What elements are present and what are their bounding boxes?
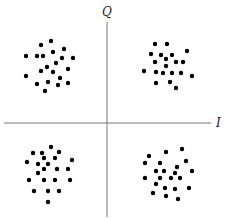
data-point	[159, 53, 163, 57]
data-point	[42, 178, 46, 182]
data-point	[143, 176, 147, 180]
data-point	[181, 60, 185, 64]
data-point	[180, 147, 184, 151]
data-point	[154, 182, 158, 186]
data-point	[158, 176, 162, 180]
data-point	[163, 186, 167, 190]
data-point	[43, 89, 47, 93]
data-point	[173, 171, 177, 175]
data-point	[53, 156, 57, 160]
data-point	[42, 167, 46, 171]
data-point	[46, 162, 50, 166]
data-point	[164, 150, 168, 154]
data-point	[154, 169, 158, 173]
data-point	[149, 52, 153, 56]
data-point	[190, 169, 194, 173]
data-point	[53, 178, 57, 182]
scatter-points	[24, 39, 194, 204]
data-point	[42, 156, 46, 160]
data-point	[153, 42, 157, 46]
data-point	[51, 70, 55, 74]
data-point	[170, 71, 174, 75]
data-point	[142, 69, 146, 73]
data-point	[190, 74, 194, 78]
data-point	[158, 161, 162, 165]
q-axis-label: Q	[102, 5, 112, 19]
data-point	[25, 160, 29, 164]
data-point	[27, 178, 31, 182]
data-point	[176, 197, 180, 201]
data-point	[143, 161, 147, 165]
data-point	[170, 53, 174, 57]
cluster-bottom-right	[143, 147, 194, 201]
data-point	[35, 82, 39, 86]
data-point	[68, 178, 72, 182]
data-point	[56, 83, 60, 87]
data-point	[153, 60, 157, 64]
data-point	[187, 186, 191, 190]
data-point	[49, 39, 53, 43]
data-point	[40, 151, 44, 155]
data-point	[173, 187, 177, 191]
data-point	[58, 76, 62, 80]
data-point	[46, 189, 50, 193]
data-point	[24, 74, 28, 78]
data-point	[174, 86, 178, 90]
data-point	[49, 145, 53, 149]
constellation-diagram: Q I	[0, 0, 228, 219]
data-point	[154, 70, 158, 74]
data-point	[36, 171, 40, 175]
data-point	[54, 61, 58, 65]
data-point	[164, 194, 168, 198]
data-point	[184, 159, 188, 163]
data-point	[39, 43, 43, 47]
data-point	[39, 69, 43, 73]
data-point	[60, 56, 64, 60]
cluster-top-left	[24, 39, 75, 93]
data-point	[41, 54, 45, 58]
data-point	[168, 80, 172, 84]
i-axis-label: I	[215, 116, 221, 130]
data-point	[62, 47, 66, 51]
data-point	[35, 54, 39, 58]
cluster-top-right	[142, 42, 194, 90]
data-point	[71, 56, 75, 60]
data-point	[185, 49, 189, 53]
data-point	[165, 42, 169, 46]
data-point	[57, 150, 61, 154]
data-point	[178, 176, 182, 180]
data-point	[32, 189, 36, 193]
data-point	[46, 80, 50, 84]
data-point	[66, 81, 70, 85]
data-point	[175, 165, 179, 169]
data-point	[154, 81, 158, 85]
data-point	[66, 167, 70, 171]
data-point	[51, 50, 55, 54]
data-point	[174, 60, 178, 64]
data-point	[179, 71, 183, 75]
cluster-bottom-left	[25, 145, 74, 204]
data-point	[151, 191, 155, 195]
data-point	[169, 176, 173, 180]
data-point	[66, 67, 70, 71]
data-point	[45, 65, 49, 69]
data-point	[164, 57, 168, 61]
data-point	[164, 64, 168, 68]
data-point	[55, 167, 59, 171]
data-point	[36, 162, 40, 166]
data-point	[31, 151, 35, 155]
data-point	[70, 158, 74, 162]
data-point	[46, 200, 50, 204]
data-point	[24, 54, 28, 58]
data-point	[162, 169, 166, 173]
data-point	[161, 71, 165, 75]
data-point	[57, 189, 61, 193]
data-point	[147, 154, 151, 158]
